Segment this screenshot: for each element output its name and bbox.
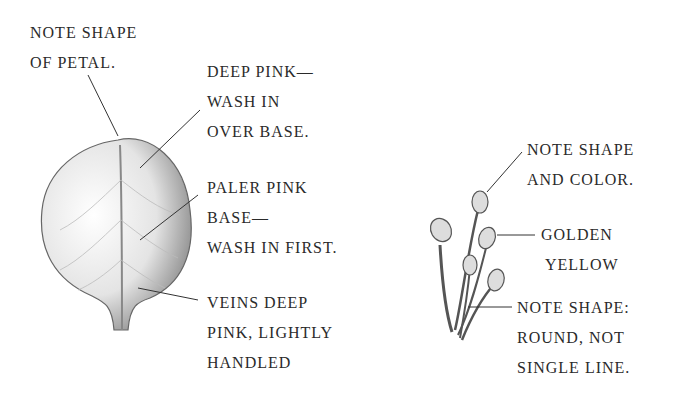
label-line: YELLOW [541,250,619,280]
label-note-shape-color: NOTE SHAPE AND COLOR. [527,135,634,195]
label-deep-pink: DEEP PINK— WASH IN OVER BASE. [207,57,314,147]
label-veins: VEINS DEEP PINK, LIGHTLY HANDLED [207,288,333,378]
label-line: OF PETAL. [30,48,137,78]
petal-drawing [41,139,191,330]
label-line: ROUND, NOT [517,323,630,353]
label-line: PINK, LIGHTLY [207,318,333,348]
label-note-shape-petal: NOTE SHAPE OF PETAL. [30,18,137,78]
label-line: AND COLOR. [527,165,634,195]
label-line: HANDLED [207,348,333,378]
petal-and-stamen-diagram: NOTE SHAPE OF PETAL. DEEP PINK— WASH IN … [0,0,694,398]
label-line: DEEP PINK— [207,57,314,87]
label-line: WASH IN FIRST. [207,233,338,263]
label-golden-yellow: GOLDEN YELLOW [541,220,619,280]
label-line: NOTE SHAPE [527,135,634,165]
label-line: PALER PINK [207,173,338,203]
label-line: VEINS DEEP [207,288,333,318]
label-line: SINGLE LINE. [517,353,630,383]
label-line: BASE— [207,203,338,233]
label-line: NOTE SHAPE: [517,293,630,323]
label-line: GOLDEN [541,220,619,250]
label-note-shape-round: NOTE SHAPE: ROUND, NOT SINGLE LINE. [517,293,630,383]
label-line: NOTE SHAPE [30,18,137,48]
label-paler-pink: PALER PINK BASE— WASH IN FIRST. [207,173,338,263]
label-line: WASH IN [207,87,314,117]
stamen-drawing [426,191,506,340]
label-line: OVER BASE. [207,117,314,147]
